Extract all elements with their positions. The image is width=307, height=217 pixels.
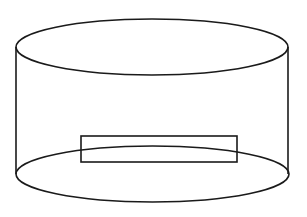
cylinder-diagram: [0, 0, 307, 217]
cylinder-top-ellipse: [16, 19, 288, 75]
cylinder-bottom-ellipse: [16, 146, 289, 202]
diagram-svg: [0, 0, 307, 217]
